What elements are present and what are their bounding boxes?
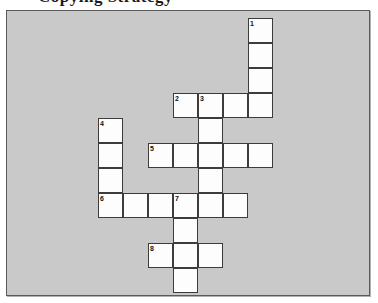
- crossword-cell[interactable]: [198, 143, 223, 168]
- crossword-cell[interactable]: 1: [248, 18, 273, 43]
- crossword-grid[interactable]: 12345678: [7, 11, 371, 297]
- crossword-cell[interactable]: [198, 193, 223, 218]
- crossword-cell[interactable]: 8: [148, 243, 173, 268]
- crossword-cell[interactable]: [173, 268, 198, 293]
- title-strip: Copying Strategy: [0, 0, 378, 9]
- crossword-cell[interactable]: 5: [148, 143, 173, 168]
- page-title: Copying Strategy: [38, 0, 173, 7]
- crossword-cell[interactable]: [148, 193, 173, 218]
- crossword-cell[interactable]: [123, 193, 148, 218]
- crossword-cell[interactable]: [173, 143, 198, 168]
- cell-number-1: 1: [250, 19, 254, 28]
- crossword-cell[interactable]: [173, 218, 198, 243]
- crossword-cell[interactable]: 6: [98, 193, 123, 218]
- crossword-cell[interactable]: 3: [198, 93, 223, 118]
- cell-number-3: 3: [200, 94, 204, 103]
- cell-number-4: 4: [100, 119, 104, 128]
- crossword-cell[interactable]: [98, 143, 123, 168]
- crossword-cell[interactable]: [248, 43, 273, 68]
- cell-number-7: 7: [175, 194, 179, 203]
- crossword-cell[interactable]: [198, 168, 223, 193]
- cell-number-8: 8: [150, 244, 154, 253]
- crossword-cell[interactable]: [248, 68, 273, 93]
- crossword-cell[interactable]: [248, 93, 273, 118]
- crossword-panel: 12345678: [6, 10, 370, 296]
- crossword-cell[interactable]: 7: [173, 193, 198, 218]
- crossword-cell[interactable]: [223, 193, 248, 218]
- cell-number-2: 2: [175, 94, 179, 103]
- crossword-cell[interactable]: [248, 143, 273, 168]
- crossword-cell[interactable]: [198, 243, 223, 268]
- crossword-cell[interactable]: 2: [173, 93, 198, 118]
- crossword-cell[interactable]: 4: [98, 118, 123, 143]
- crossword-cell[interactable]: [223, 93, 248, 118]
- cell-number-5: 5: [150, 144, 154, 153]
- crossword-cell[interactable]: [223, 143, 248, 168]
- crossword-cell[interactable]: [198, 118, 223, 143]
- cell-number-6: 6: [100, 194, 104, 203]
- crossword-cell[interactable]: [98, 168, 123, 193]
- crossword-cell[interactable]: [173, 243, 198, 268]
